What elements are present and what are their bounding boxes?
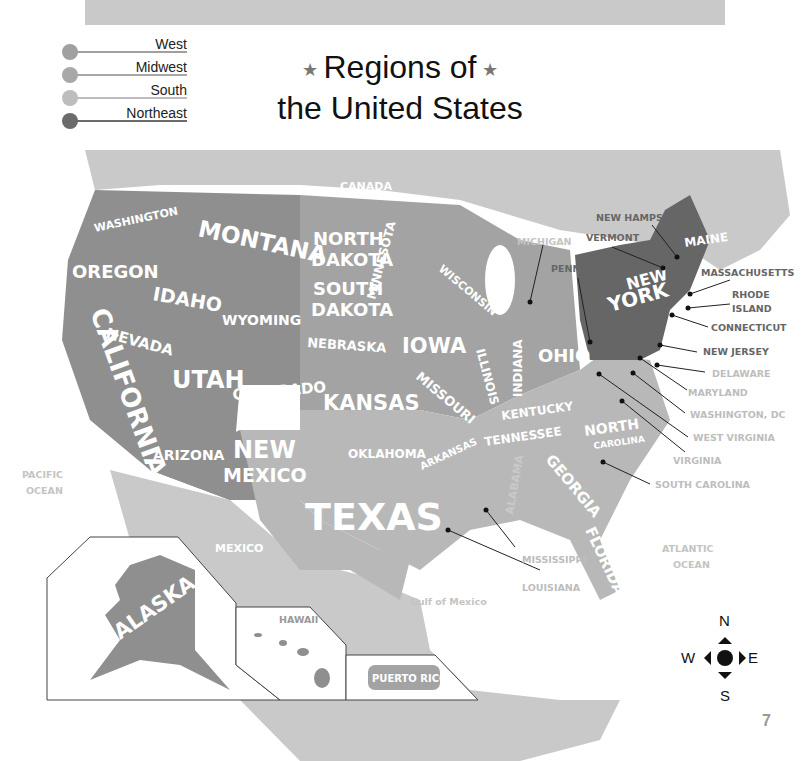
label-pacific-ocean-2: OCEAN: [26, 485, 63, 496]
label-oklahoma: OKLAHOMA: [348, 447, 427, 461]
label-texas: TEXAS: [305, 495, 443, 539]
callout-mississippi: MISSISSIPPI: [522, 554, 586, 565]
callout-delaware: DELAWARE: [712, 368, 771, 379]
label-atlantic-ocean-2: OCEAN: [673, 559, 710, 570]
callout-michigan: MICHIGAN: [517, 236, 572, 247]
label-puerto-rico: PUERTO RICO: [372, 673, 448, 684]
label-oregon: OREGON: [72, 261, 159, 282]
compass-rose: N W E S: [680, 612, 770, 707]
compass-west: W: [681, 649, 695, 666]
page-number: 7: [762, 712, 771, 730]
callout-new-jersey: NEW JERSEY: [703, 346, 769, 357]
callout-pennsylvania: PENNSYLVANIA: [551, 263, 632, 274]
label-indiana: INDIANA: [511, 339, 525, 397]
callout-rhode-island-2: ISLAND: [732, 303, 772, 314]
label-ohio: OHIO: [538, 345, 590, 366]
callout-new-hampshire: NEW HAMPSHIRE: [596, 212, 688, 223]
label-hawaii: HAWAII: [279, 614, 318, 625]
compass-north: N: [719, 612, 730, 629]
callout-maryland: MARYLAND: [688, 387, 748, 398]
compass-south: S: [720, 687, 730, 704]
label-canada: CANADA: [340, 180, 392, 193]
label-new-mexico-1: NEW: [233, 436, 296, 464]
callout-connecticut: CONNECTICUT: [711, 322, 787, 333]
callout-south-carolina: SOUTH CAROLINA: [655, 479, 751, 490]
label-pacific-ocean-1: PACIFIC: [22, 469, 63, 480]
label-new-mexico-2: MEXICO: [223, 464, 307, 486]
callout-vermont: VERMONT: [586, 232, 640, 243]
label-iowa: IOWA: [402, 334, 467, 358]
callout-massachusetts: MASSACHUSETTS: [701, 267, 795, 278]
callout-louisiana: LOUISIANA: [522, 582, 581, 593]
label-atlantic-ocean-1: ATLANTIC: [662, 543, 713, 554]
label-kansas: KANSAS: [323, 391, 420, 415]
label-gulf-of-mexico: Gulf of Mexico: [410, 596, 487, 607]
callout-rhode-island-1: RHODE: [732, 289, 770, 300]
label-south-dakota-2: DAKOTA: [311, 299, 393, 320]
callout-washington-dc: WASHINGTON, DC: [690, 409, 786, 420]
label-mexico: MEXICO: [215, 542, 263, 555]
label-north-dakota-1: NORTH: [313, 228, 384, 249]
callout-west-virginia: WEST VIRGINIA: [693, 432, 776, 443]
label-arizona: ARIZONA: [153, 447, 225, 463]
label-wyoming: WYOMING: [222, 312, 301, 328]
callout-virginia: VIRGINIA: [673, 455, 722, 466]
compass-arrows-icon: [698, 630, 752, 686]
